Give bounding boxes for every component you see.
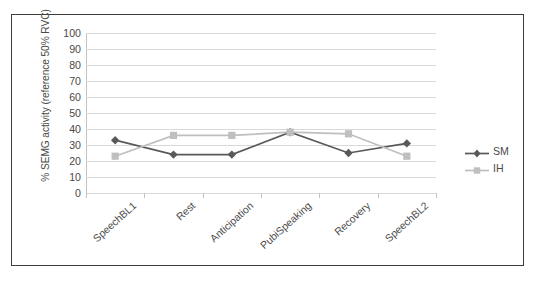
data-point-sm (344, 149, 352, 157)
data-point-sm (228, 150, 236, 158)
y-tick-label: 10 (69, 171, 81, 183)
x-tick-mark (319, 193, 320, 198)
y-tick-label: 20 (69, 155, 81, 167)
legend-label: IH (493, 162, 504, 174)
y-tick-label: 100 (63, 27, 81, 39)
data-point-ih (170, 132, 177, 139)
x-tick-label: SpeechBL1 (91, 200, 138, 244)
y-tick-label: 60 (69, 91, 81, 103)
y-axis-title: % SEMG activity (reference 50% RVC) (40, 1, 51, 191)
y-tick-label: 30 (69, 139, 81, 151)
y-tick-label: 40 (69, 123, 81, 135)
data-point-sm (111, 136, 119, 144)
data-point-ih (345, 130, 352, 137)
x-tick-label: Rest (174, 200, 197, 222)
data-point-ih (228, 132, 235, 139)
legend-item-sm[interactable]: SM (464, 142, 524, 159)
square-marker (464, 162, 490, 173)
y-tick-label: 0 (75, 187, 81, 199)
plot-area: 1009080706050403020100 SpeechBL1RestAnti… (86, 33, 436, 193)
chart-figure: % SEMG activity (reference 50% RVC) 1009… (0, 0, 537, 284)
y-tick-label: 90 (69, 43, 81, 55)
y-tick-label: 80 (69, 59, 81, 71)
diamond-marker (464, 145, 490, 156)
series-line-sm (115, 132, 407, 154)
data-point-sm (169, 150, 177, 158)
series-plot (86, 33, 436, 193)
x-tick-mark (261, 193, 262, 198)
data-point-ih (403, 153, 410, 160)
data-point-sm (403, 139, 411, 147)
x-tick-label: Recovery (332, 200, 372, 238)
x-tick-mark (436, 193, 437, 198)
x-tick-mark (378, 193, 379, 198)
legend-item-ih[interactable]: IH (464, 159, 524, 176)
x-tick-label: SpeechBL2 (383, 200, 430, 244)
x-tick-label: PubiSpeaking (259, 200, 314, 251)
chart-legend: SMIH (464, 142, 524, 176)
x-tick-mark (86, 193, 87, 198)
legend-label: SM (493, 145, 509, 157)
x-tick-label: Anticipation (208, 200, 255, 244)
y-tick-label: 70 (69, 75, 81, 87)
y-tick-label: 50 (69, 107, 81, 119)
x-tick-mark (203, 193, 204, 198)
data-point-ih (287, 129, 294, 136)
data-point-ih (112, 153, 119, 160)
x-tick-mark (144, 193, 145, 198)
chart-frame: % SEMG activity (reference 50% RVC) 1009… (11, 14, 524, 266)
